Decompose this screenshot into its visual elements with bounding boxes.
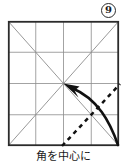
origami-step-figure: 9 角を中心に — [0, 0, 126, 162]
step-caption: 角を中心に — [0, 150, 126, 162]
origami-diagram — [0, 0, 126, 162]
